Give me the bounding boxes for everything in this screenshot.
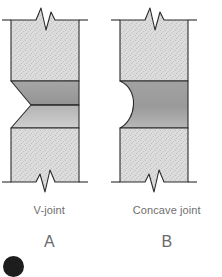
panel-letter-b: B — [113, 232, 222, 252]
panel-a-upper-plate — [11, 8, 79, 81]
weld-joint-diagram — [0, 0, 217, 269]
joint-name-a: V-joint — [0, 203, 104, 217]
joint-name-b: Concave joint — [113, 203, 222, 217]
panel-letter-a: A — [0, 232, 104, 252]
panel-a-weld-band-lower — [11, 105, 79, 128]
panel-b-weld-band — [120, 81, 188, 128]
panel-a-weld-band-upper — [11, 81, 79, 105]
panel-b-upper-plate — [120, 8, 188, 81]
panel-b-concave-joint — [111, 8, 197, 192]
panel-a-v-joint — [2, 8, 88, 192]
filled-circle-badge-icon — [3, 256, 24, 277]
panel-a-lower-plate — [11, 128, 79, 192]
panel-b-lower-plate — [120, 128, 188, 192]
panel-letter-caption-row: A B — [0, 232, 217, 252]
joint-name-caption-row: V-joint Concave joint — [0, 203, 217, 217]
figure-root: V-joint Concave joint A B — [0, 0, 217, 269]
